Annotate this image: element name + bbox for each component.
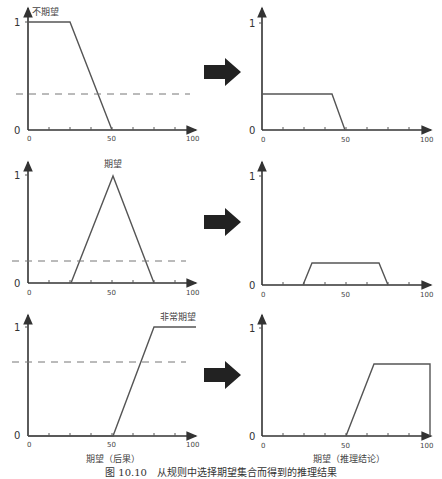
figure-caption: 图 10.10 从规则中选择期望集合而得到的推理结果 xyxy=(0,464,442,479)
arrow-right-icon xyxy=(204,208,241,236)
y-tick-0: 0 xyxy=(14,125,20,136)
x-tick-100: 100 xyxy=(420,442,433,450)
chart-very-desirable: 1 0 0 50 100 非常期望 期望（后果） xyxy=(12,311,199,464)
x-tick-50: 50 xyxy=(341,442,350,450)
y-tick-1: 1 xyxy=(14,17,20,28)
y-tick-1: 1 xyxy=(249,18,255,29)
x-tick-50: 50 xyxy=(107,289,116,297)
y-tick-0: 0 xyxy=(249,431,255,442)
set-label: 非常期望 xyxy=(160,311,196,322)
x-tick-100: 100 xyxy=(186,289,199,297)
membership-curve xyxy=(28,327,196,436)
set-label: 不期望 xyxy=(32,6,59,17)
set-label: 期望 xyxy=(104,158,122,169)
chart-result-1: 1 0 0 50 100 xyxy=(249,8,433,144)
x-tick-50: 50 xyxy=(107,135,116,143)
chart-not-desirable: 1 0 0 50 100 不期望 xyxy=(14,6,199,143)
membership-curve xyxy=(28,22,112,130)
y-tick-1: 1 xyxy=(249,171,255,182)
x-axis-title: 期望（后果） xyxy=(86,453,140,464)
x-tick-50: 50 xyxy=(341,136,350,144)
x-tick-0: 0 xyxy=(261,136,265,144)
y-tick-0: 0 xyxy=(14,430,20,441)
chart-result-2: 1 0 0 50 100 xyxy=(249,162,433,299)
x-tick-50: 50 xyxy=(341,291,350,299)
y-tick-0: 0 xyxy=(249,280,255,291)
y-tick-0: 0 xyxy=(249,125,255,136)
x-tick-0: 0 xyxy=(261,291,265,299)
arrow-right-icon xyxy=(204,361,241,389)
clipped-result xyxy=(346,364,430,436)
x-tick-50: 50 xyxy=(107,441,116,449)
membership-curve xyxy=(71,176,154,283)
clipped-result xyxy=(262,94,345,130)
x-tick-0: 0 xyxy=(261,442,265,450)
y-tick-1: 1 xyxy=(14,322,20,333)
x-axis-title: 期望（推理结论） xyxy=(313,453,385,464)
x-tick-100: 100 xyxy=(186,441,199,449)
x-tick-0: 0 xyxy=(27,289,31,297)
x-tick-100: 100 xyxy=(186,135,199,143)
x-tick-0: 0 xyxy=(27,135,31,143)
x-tick-100: 100 xyxy=(420,136,433,144)
x-tick-100: 100 xyxy=(420,291,433,299)
y-tick-1: 1 xyxy=(249,323,255,334)
y-tick-1: 1 xyxy=(14,170,20,181)
chart-desirable: 1 0 0 50 100 期望 xyxy=(12,158,199,297)
x-tick-0: 0 xyxy=(27,441,31,449)
clipped-result xyxy=(303,263,388,285)
arrow-right-icon xyxy=(204,58,241,86)
chart-result-3: 1 0 0 50 100 期望（推理结论） xyxy=(249,315,433,464)
y-tick-0: 0 xyxy=(14,278,20,289)
